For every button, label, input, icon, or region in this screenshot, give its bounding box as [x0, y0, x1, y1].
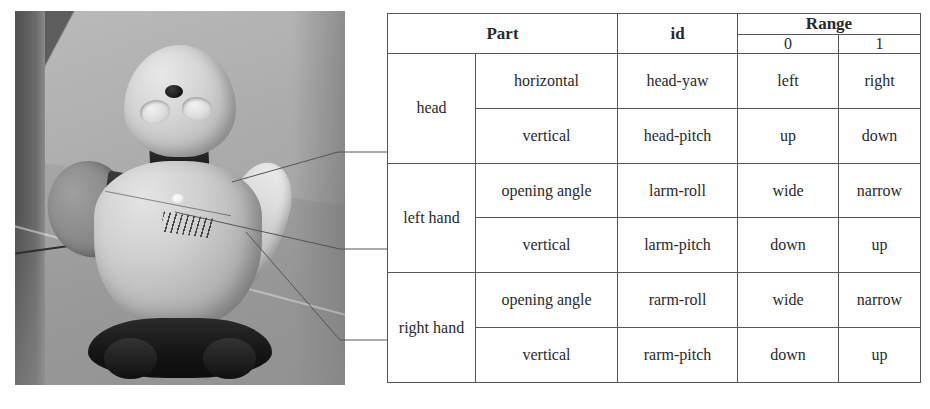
- robot-parts-table-container: Part id Range 0 1 head horizontal head-y…: [387, 13, 920, 383]
- robot-status-led: [172, 194, 185, 204]
- motion-cell: opening angle: [476, 163, 618, 218]
- range0-cell: wide: [738, 273, 839, 328]
- header-part: Part: [388, 14, 618, 54]
- range1-cell: up: [839, 218, 921, 273]
- range1-cell: narrow: [839, 163, 921, 218]
- header-range-0: 0: [738, 35, 839, 54]
- part-cell-head: head: [388, 54, 476, 164]
- robot-foot-left: [104, 338, 157, 379]
- table-row: left hand opening angle larm-roll wide n…: [388, 163, 921, 218]
- table-header: Part id Range 0 1: [388, 14, 921, 54]
- range0-cell: down: [738, 328, 839, 383]
- robot-parts-table: Part id Range 0 1 head horizontal head-y…: [387, 13, 921, 383]
- header-range-1: 1: [839, 35, 921, 54]
- motion-cell: horizontal: [476, 54, 618, 109]
- robot-eye-left: [138, 98, 171, 126]
- range1-cell: down: [839, 108, 921, 163]
- id-cell: head-pitch: [618, 108, 738, 163]
- id-cell: larm-roll: [618, 163, 738, 218]
- range0-cell: down: [738, 218, 839, 273]
- range1-cell: up: [839, 328, 921, 383]
- robot-eye-right: [181, 96, 214, 123]
- table-header-row-1: Part id Range: [388, 14, 921, 35]
- range1-cell: right: [839, 54, 921, 109]
- robot-body: [94, 161, 262, 326]
- robot-camera-lens: [165, 85, 183, 98]
- header-id: id: [618, 14, 738, 54]
- table-row: right hand opening angle rarm-roll wide …: [388, 273, 921, 328]
- part-cell-right-hand: right hand: [388, 273, 476, 383]
- motion-cell: vertical: [476, 328, 618, 383]
- part-cell-left-hand: left hand: [388, 163, 476, 273]
- table-body: head horizontal head-yaw left right vert…: [388, 54, 921, 383]
- robot-head: [124, 45, 236, 157]
- robot-figure: [15, 11, 345, 385]
- robot-photograph: [15, 11, 345, 385]
- motion-cell: vertical: [476, 218, 618, 273]
- range0-cell: left: [738, 54, 839, 109]
- id-cell: rarm-pitch: [618, 328, 738, 383]
- robot-speaker-grille: [160, 211, 213, 238]
- id-cell: head-yaw: [618, 54, 738, 109]
- header-range: Range: [738, 14, 921, 35]
- id-cell: rarm-roll: [618, 273, 738, 328]
- range1-cell: narrow: [839, 273, 921, 328]
- range0-cell: wide: [738, 163, 839, 218]
- robot-foot-right: [203, 338, 256, 379]
- motion-cell: opening angle: [476, 273, 618, 328]
- id-cell: larm-pitch: [618, 218, 738, 273]
- range0-cell: up: [738, 108, 839, 163]
- motion-cell: vertical: [476, 108, 618, 163]
- table-row: head horizontal head-yaw left right: [388, 54, 921, 109]
